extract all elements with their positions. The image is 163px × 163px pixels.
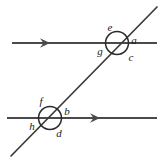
geometry-canvas — [0, 0, 163, 163]
angle-label-c: c — [129, 52, 134, 63]
geometry-figure: e a g c f b h d — [0, 0, 163, 163]
angle-label-g: g — [97, 46, 103, 57]
transversal-line — [11, 7, 157, 156]
angle-label-a: a — [131, 35, 137, 46]
angle-label-f: f — [39, 96, 42, 107]
angle-label-e: e — [108, 22, 113, 33]
angle-label-b: b — [64, 106, 70, 117]
angle-label-d: d — [56, 128, 62, 139]
angle-label-h: h — [29, 121, 35, 132]
